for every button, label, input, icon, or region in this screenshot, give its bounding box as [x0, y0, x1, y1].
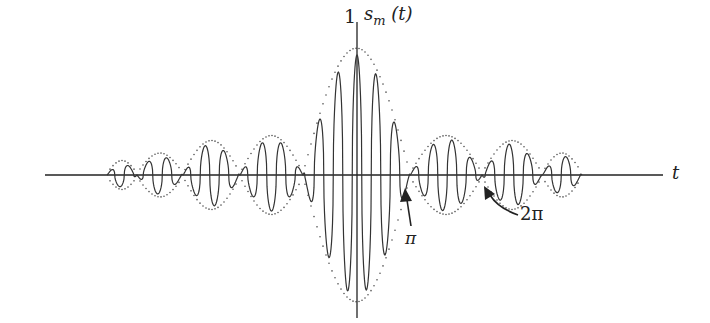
pi-annotation: π [405, 228, 416, 248]
y-label-sub: m [373, 13, 385, 28]
two-pi-annotation: 2π [520, 203, 543, 224]
modulated-sinc-plot [0, 0, 710, 323]
x-axis-label: t [672, 162, 679, 183]
y-tick-label: 1 [344, 5, 356, 27]
y-label-arg: (t) [391, 3, 412, 24]
two-pi-arrow-icon [484, 186, 518, 215]
y-label-s: s [364, 3, 373, 24]
pi-arrow-icon [400, 188, 412, 226]
signal-curve [107, 55, 582, 291]
y-axis-label: sm (t) [364, 3, 413, 28]
